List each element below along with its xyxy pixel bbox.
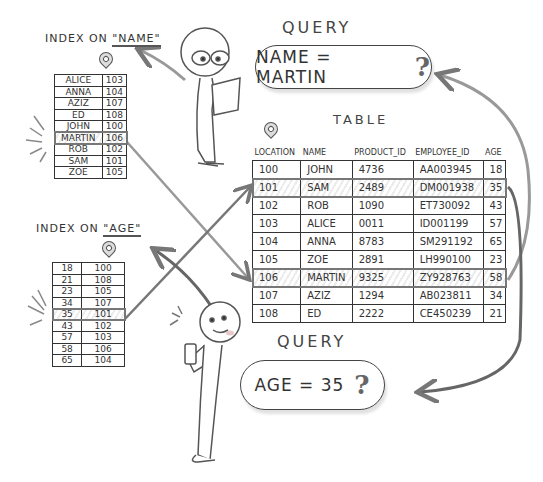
index-location-cell: 102 (82, 320, 125, 332)
age-query-title: QUERY (277, 332, 346, 351)
table-cell: JOHN (301, 161, 352, 179)
table-cell: 65 (483, 233, 505, 251)
index-key-cell: 21 (53, 274, 82, 286)
table-cell: 18 (483, 161, 505, 179)
index-location-cell: 108 (82, 274, 125, 286)
index-key-cell: ZOE (55, 167, 103, 179)
table-row: 108ED2222CE45023921 (253, 305, 506, 323)
index-key-cell: 35 (53, 309, 82, 321)
figure-top (181, 28, 240, 166)
table-title: TABLE (333, 112, 388, 127)
table-cell: AZIZ (301, 287, 352, 305)
index-row: 58106 (53, 343, 125, 355)
table-cell: AB023811 (413, 287, 483, 305)
table-cell: 2489 (352, 179, 413, 197)
index-key-cell: ROB (55, 144, 103, 156)
index-row: MARTIN106 (55, 132, 127, 144)
table-cell: 8783 (352, 233, 413, 251)
index-row: ALICE103 (55, 75, 127, 87)
table-cell: 2891 (352, 251, 413, 269)
table-row: 104ANNA8783SM29119265 (253, 233, 506, 251)
table-cell: MARTIN (301, 269, 352, 287)
index-location-cell: 104 (102, 86, 126, 98)
index-row: ROB102 (55, 144, 127, 156)
table-cell: 106 (253, 269, 301, 287)
table-cell: ET730092 (413, 197, 483, 215)
table-cell: ALICE (301, 215, 352, 233)
index-key-cell: 23 (53, 286, 82, 298)
index-row: 21108 (53, 274, 125, 286)
table-cell: 0011 (352, 215, 413, 233)
index-location-cell: 100 (82, 263, 125, 275)
index-location-cell: 108 (102, 109, 126, 121)
index-row: 65104 (53, 355, 125, 367)
table-cell: 104 (253, 233, 301, 251)
column-header: NAME (301, 148, 352, 161)
index-location-cell: 102 (102, 144, 126, 156)
index-location-cell: 103 (82, 332, 125, 344)
index-location-cell: 105 (102, 167, 126, 179)
index-location-cell: 106 (82, 343, 125, 355)
table-cell: 101 (253, 179, 301, 197)
table-cell: DM001938 (413, 179, 483, 197)
table-cell: 1090 (352, 197, 413, 215)
name-index-field: "NAME" (112, 32, 160, 47)
index-location-cell: 100 (102, 121, 126, 133)
question-mark-icon: ? (354, 370, 370, 400)
index-row: JOHN100 (55, 121, 127, 133)
name-index-title: INDEX ON "NAME" (45, 32, 161, 45)
index-location-cell: 107 (102, 98, 126, 110)
table-cell: 108 (253, 305, 301, 323)
table-cell: 58 (483, 269, 505, 287)
index-key-cell: 34 (53, 297, 82, 309)
index-row: AZIZ107 (55, 98, 127, 110)
age-index-table: 1810021108231053410735101431025710358106… (52, 262, 125, 367)
index-key-cell: 43 (53, 320, 82, 332)
table-cell: 1294 (352, 287, 413, 305)
column-header: AGE (483, 148, 505, 161)
index-key-cell: SAM (55, 155, 103, 167)
table-row: 101SAM2489DM00193835 (253, 179, 506, 197)
index-row: 35101 (53, 309, 125, 321)
sparkle-name-index (26, 116, 46, 162)
index-key-cell: 58 (53, 343, 82, 355)
index-row: ANNA104 (55, 86, 127, 98)
index-location-cell: 107 (82, 297, 125, 309)
index-row: ZOE105 (55, 167, 127, 179)
main-table: LOCATIONNAMEPRODUCT_IDEMPLOYEE_IDAGE 100… (252, 148, 506, 323)
index-location-cell: 103 (102, 75, 126, 87)
table-cell: LH990100 (413, 251, 483, 269)
index-location-cell: 101 (102, 155, 126, 167)
arrow-35-to-row-101 (125, 187, 250, 319)
index-key-cell: 18 (53, 263, 82, 275)
table-cell: SAM (301, 179, 352, 197)
table-row: 107AZIZ1294AB02381134 (253, 287, 506, 305)
table-cell: CE450239 (413, 305, 483, 323)
table-cell: 34 (483, 287, 505, 305)
name-query-title: QUERY (282, 18, 351, 37)
table-cell: 107 (253, 287, 301, 305)
table-cell: ANNA (301, 233, 352, 251)
name-index-table: ALICE103ANNA104AZIZ107ED108JOHN100MARTIN… (54, 74, 127, 179)
index-row: 23105 (53, 286, 125, 298)
table-row: 102ROB1090ET73009243 (253, 197, 506, 215)
name-query-text: NAME = MARTIN (256, 47, 405, 87)
figure-bottom (170, 302, 240, 462)
index-row: 57103 (53, 332, 125, 344)
table-cell: ED (301, 305, 352, 323)
age-index-title: INDEX ON "AGE" (36, 222, 141, 235)
table-row: 106MARTIN9325ZY92876358 (253, 269, 506, 287)
index-location-cell: 101 (82, 309, 125, 321)
table-cell: 4736 (352, 161, 413, 179)
table-cell: 57 (483, 215, 505, 233)
index-location-cell: 106 (102, 132, 126, 144)
column-header: LOCATION (253, 148, 301, 161)
index-key-cell: ED (55, 109, 103, 121)
question-mark-icon: ? (415, 52, 431, 82)
index-key-cell: 57 (53, 332, 82, 344)
table-cell: SM291192 (413, 233, 483, 251)
table-cell: AA003945 (413, 161, 483, 179)
index-row: SAM101 (55, 155, 127, 167)
table-row: 100JOHN4736AA00394518 (253, 161, 506, 179)
table-cell: 9325 (352, 269, 413, 287)
